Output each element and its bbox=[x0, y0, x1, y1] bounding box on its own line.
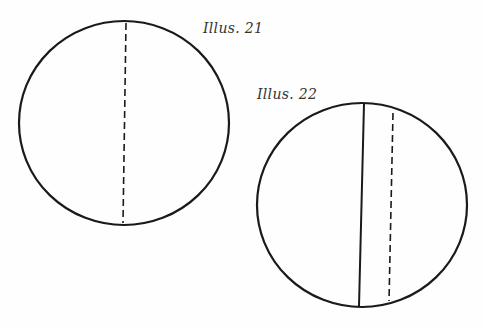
illus-21-diagram bbox=[19, 21, 229, 225]
illus-22-caption: Illus. 22 bbox=[257, 86, 317, 102]
illustrations-figure bbox=[0, 0, 484, 329]
illus-21-caption: Illus. 21 bbox=[203, 20, 263, 36]
illustration-page: Illus. 21 Illus. 22 bbox=[0, 0, 484, 329]
illus-22-diagram bbox=[257, 103, 467, 307]
illus-22-solid-fold-line bbox=[359, 104, 364, 306]
illus-22-dashed-fold-line bbox=[389, 113, 393, 301]
illus-21-dashed-fold-line bbox=[123, 23, 126, 223]
